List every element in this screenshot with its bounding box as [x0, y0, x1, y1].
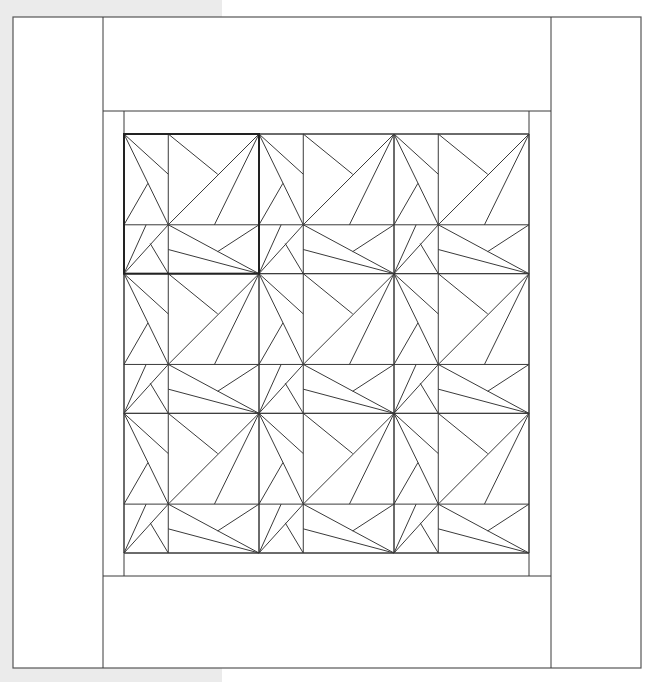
outer-frame [13, 17, 641, 668]
quilt-pattern-drawing [0, 0, 653, 682]
